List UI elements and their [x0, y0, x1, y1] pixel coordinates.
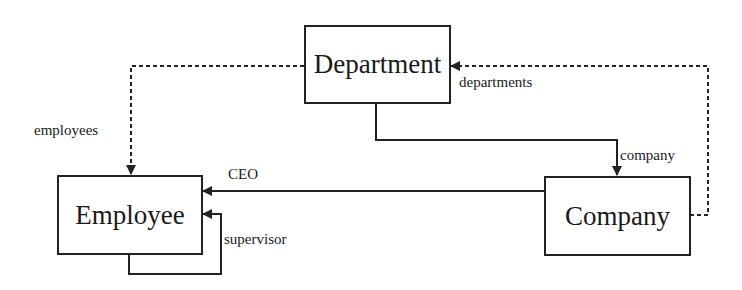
entity-company[interactable]: Company	[544, 176, 691, 256]
entity-employee-label: Employee	[75, 200, 184, 231]
company-label: company	[620, 147, 675, 164]
supervisor-label: supervisor	[224, 231, 287, 248]
departments-label: departments	[459, 74, 532, 91]
employees-connector	[131, 66, 304, 174]
entity-department[interactable]: Department	[304, 25, 451, 104]
entity-employee[interactable]: Employee	[57, 175, 203, 255]
employees-label: employees	[34, 122, 98, 139]
company-connector	[376, 103, 617, 175]
entity-department-label: Department	[314, 49, 441, 80]
ceo-label: CEO	[228, 166, 258, 183]
entity-company-label: Company	[565, 201, 670, 232]
